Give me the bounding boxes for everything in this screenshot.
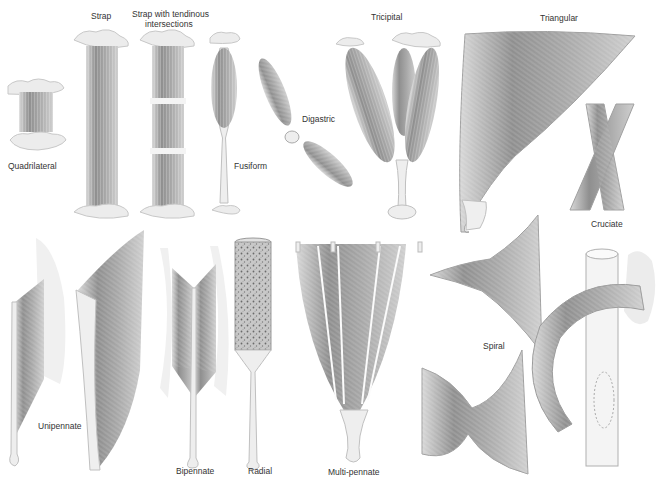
cruciate-muscle (570, 104, 634, 210)
multipennate-muscle (296, 242, 422, 462)
label-unipennate: Unipennate (38, 421, 81, 431)
quadrilateral-muscle (8, 79, 66, 150)
tricipital-muscle (335, 32, 446, 219)
label-bipennate: Bipennate (176, 466, 214, 476)
unipennate-muscle-small (10, 238, 66, 466)
label-triangular: Triangular (540, 13, 578, 23)
label-spiral: Spiral (483, 341, 505, 351)
strap-muscle (74, 30, 128, 219)
label-radial: Radial (248, 466, 272, 476)
strap-tendinous-muscle (140, 30, 194, 219)
label-cruciate: Cruciate (591, 219, 623, 229)
label-strap-tendinous-line2: intersections (145, 19, 193, 29)
label-fusiform: Fusiform (234, 161, 267, 171)
unipennate-muscle-large (76, 230, 144, 470)
fusiform-muscle (210, 32, 240, 214)
muscle-shapes-diagram (0, 0, 668, 485)
label-digastric: Digastric (302, 114, 335, 124)
bipennate-muscle (160, 246, 229, 468)
label-strap-tendinous-line1: Strap with tendinous (132, 9, 209, 19)
label-strap: Strap (91, 11, 111, 21)
spiral-muscle-bone (532, 249, 655, 466)
spiral-muscle-top (430, 215, 542, 353)
spiral-muscle-bottom (422, 350, 528, 474)
label-tricipital: Tricipital (371, 12, 402, 22)
radial-muscle (235, 238, 271, 470)
label-multipennate: Multi-pennate (328, 467, 380, 477)
label-quadrilateral: Quadrilateral (8, 161, 57, 171)
